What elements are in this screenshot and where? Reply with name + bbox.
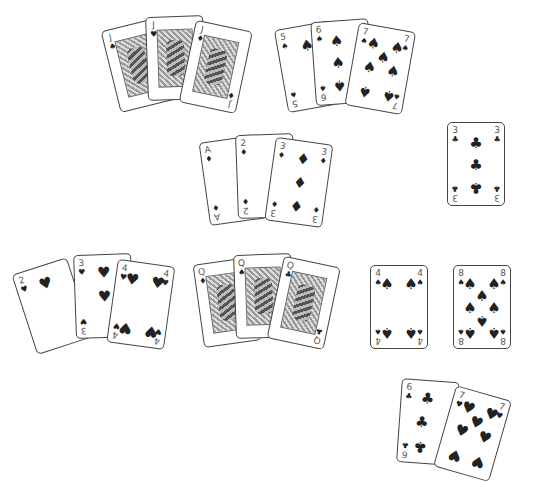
diamond-icon: ♦: [203, 154, 214, 164]
card-rank: 8: [500, 268, 506, 278]
spade-pip-icon: ♠: [487, 301, 500, 316]
spade-pip-icon: ♠: [385, 63, 401, 80]
card-4-hearts[interactable]: 4♥ 4♥ ♥ ♥ ♥ ♥ 4♥ 4♥: [106, 259, 175, 350]
spade-icon: ♠: [391, 91, 402, 102]
spade-icon: ♠: [279, 41, 290, 52]
card-rank: 4: [417, 268, 423, 278]
club-pip-icon: ♣: [469, 158, 482, 173]
card-rank: 7: [391, 100, 398, 111]
club-icon: ♣: [400, 440, 411, 450]
club-icon: ♣: [450, 184, 460, 193]
spade-icon: ♠: [314, 34, 325, 44]
card-rank: J: [200, 24, 205, 34]
card-rank: Q: [313, 335, 322, 346]
heart-pip-icon: ♥: [470, 452, 487, 470]
card-rank: 5: [291, 98, 298, 109]
card-rank: J: [152, 20, 155, 30]
card-rank: 6: [316, 24, 322, 34]
diamond-icon: ♦: [276, 150, 287, 160]
diamond-icon: ♦: [269, 199, 280, 209]
card-rank: 3: [311, 214, 318, 225]
card-rank: 3: [270, 208, 277, 219]
spade-icon: ♠: [318, 83, 329, 93]
meld-jacks: J♠ J♥ J♦ J♦: [112, 14, 252, 114]
meld-diamonds-run: A♦ A♦ 2♦ 2♦ 3♦ 3♦ ♦ ♦ ♦ 3♦ 3♦: [204, 130, 334, 230]
card-rank: 3: [494, 193, 500, 203]
card-rank: 3: [452, 193, 458, 203]
diamond-pip-icon: ♦: [289, 199, 304, 216]
heart-pip-icon: ♥: [98, 289, 112, 304]
card-rank: 2: [240, 138, 246, 148]
card-rank: 6: [406, 382, 412, 392]
card-rank: Q: [238, 258, 245, 268]
spade-pip-icon: ♠: [332, 77, 346, 93]
heart-icon: ♥: [78, 317, 88, 326]
diamond-icon: ♦: [317, 156, 328, 166]
card-rank: 4: [153, 336, 160, 347]
club-pip-icon: ♣: [469, 180, 482, 195]
spade-icon: ♠: [373, 327, 383, 336]
diamond-icon: ♦: [311, 204, 322, 214]
heart-pip-icon: ♥: [150, 275, 165, 292]
diamond-icon: ♦: [225, 90, 237, 101]
card-3-clubs[interactable]: 3♣ 3♣ ♣ ♣ ♣ 3♣ 3♣: [447, 122, 505, 206]
heart-icon: ♥: [18, 283, 30, 295]
heart-pip-icon: ♥: [476, 429, 493, 447]
spade-pip-icon: ♠: [357, 83, 373, 100]
spade-pip-icon: ♠: [389, 40, 405, 57]
card-rank: 4: [417, 336, 423, 346]
heart-icon: ♥: [111, 321, 122, 331]
spade-pip-icon: ♠: [487, 277, 500, 292]
spade-pip-icon: ♠: [380, 277, 393, 292]
club-pip-icon: ♣: [469, 136, 482, 151]
spade-icon: ♠: [498, 327, 508, 336]
card-rank: 3: [81, 326, 87, 336]
card-rank: 6: [401, 449, 407, 459]
club-icon: ♣: [492, 184, 502, 193]
heart-pip-icon: ♥: [453, 422, 470, 440]
card-rank: 3: [78, 258, 84, 268]
diamond-pip-icon: ♦: [295, 151, 310, 168]
meld-hearts-run: 2♥ ♥ 2♥ 3♥ ♥ ♥ 3♥ 4♥ 4♥ ♥ ♥ ♥ ♥ 4♥ 4♥: [28, 250, 173, 355]
card-rank: 4: [375, 336, 381, 346]
spade-icon: ♠: [415, 327, 425, 336]
card-rank: 3: [494, 125, 500, 135]
spade-pip-icon: ♠: [404, 277, 417, 292]
card-4-spades[interactable]: 4♠ 4♠ ♠ ♠ ♠ ♠ 4♠ 4♠: [370, 265, 428, 349]
card-rank: 4: [112, 330, 119, 341]
spade-pip-icon: ♠: [329, 33, 343, 49]
spade-icon: ♠: [456, 327, 466, 336]
card-rank: 8: [500, 336, 506, 346]
spade-pip-icon: ♠: [331, 55, 345, 71]
club-pip-icon: ♣: [420, 391, 434, 407]
card-rank: J: [227, 99, 232, 109]
card-rank: A: [213, 212, 221, 223]
card-8-spades[interactable]: 8♠ 8♠ ♠ ♠ ♠ ♠ ♠ ♠ ♠ ♠ 8♠ 8♠: [453, 265, 511, 349]
club-pip-icon: ♣: [413, 439, 427, 455]
card-rank: 6: [320, 92, 326, 102]
meld-spades-run: 5♠ ♠ 5♠ 6♠ ♠ ♠ ♠ 6♠ 7♠ 7♠ ♠ ♠ ♠ ♠ ♠ ♠ ♠ …: [282, 16, 412, 126]
club-pip-icon: ♣: [415, 415, 429, 431]
heart-pip-icon: ♥: [37, 275, 54, 293]
card-rank: 8: [458, 336, 464, 346]
spade-icon: ♠: [288, 89, 299, 100]
spade-pip-icon: ♠: [361, 59, 377, 76]
diamond-icon: ♦: [240, 197, 250, 206]
diamond-icon: ♦: [239, 148, 249, 157]
face-art: [280, 271, 327, 335]
meld-six-seven: 6♣ ♣ ♣ ♣ 6♣ 7♥ 7♥ ♥ ♥ ♥ ♥ ♥ ♥ ♥: [388, 376, 508, 476]
card-rank: 3: [452, 125, 458, 135]
face-art: [192, 35, 239, 99]
club-icon: ♣: [450, 135, 460, 144]
club-icon: ♣: [313, 326, 325, 337]
diamond-pip-icon: ♦: [292, 175, 307, 192]
diamond-icon: ♦: [210, 202, 221, 212]
card-3-diamonds[interactable]: 3♦ 3♦ ♦ ♦ ♦ 3♦ 3♦: [264, 137, 333, 228]
heart-pip-icon: ♥: [447, 446, 464, 464]
heart-icon: ♥: [153, 326, 164, 336]
card-rank: 2: [243, 206, 249, 216]
club-icon: ♣: [492, 135, 502, 144]
heart-pip-icon: ♥: [124, 272, 139, 289]
heart-icon: ♥: [77, 268, 87, 277]
meld-queens: Q♦ Q♠ Q♣ Q♣: [198, 252, 338, 352]
